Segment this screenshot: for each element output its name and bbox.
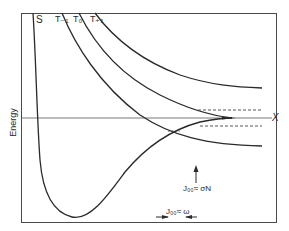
exchange-sigma-n-annotation: J₀₀≈ σN (183, 185, 211, 193)
up-arrow-icon (194, 165, 199, 172)
exchange-omega-annotation: J₀₀≈ ω (166, 208, 190, 216)
s-curve-label: S (36, 15, 43, 25)
t-minus-1-label: T₋₁ (55, 15, 69, 24)
t-plus-1-curve (95, 13, 262, 88)
y-axis-label: Energy (9, 106, 18, 140)
energy-diagram (0, 0, 289, 231)
convergence-point (222, 117, 236, 120)
t-0-label: T₀ (73, 15, 82, 24)
t-0-curve (79, 13, 232, 118)
x-point-label: X (272, 113, 279, 123)
t-plus-1-label: T₊₁ (90, 15, 104, 24)
